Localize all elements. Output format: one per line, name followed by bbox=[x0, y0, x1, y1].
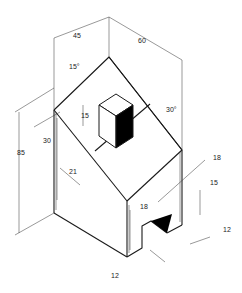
house-body bbox=[54, 57, 182, 257]
dim-30-left: 30 bbox=[43, 137, 51, 144]
dim-30-degree: 30° bbox=[166, 106, 177, 113]
dim-45: 45 bbox=[73, 32, 81, 39]
dim-15-cube: 15 bbox=[81, 112, 89, 119]
dim-12-bottom: 12 bbox=[111, 272, 119, 279]
dim-18-right: 18 bbox=[213, 154, 221, 161]
roof-cube bbox=[99, 94, 133, 148]
dim-85: 85 bbox=[17, 149, 25, 156]
dim-21: 21 bbox=[69, 168, 77, 175]
dim-60: 60 bbox=[138, 37, 146, 44]
dim-18-mid: 18 bbox=[140, 203, 148, 210]
dim-15-degree: 15° bbox=[69, 63, 80, 70]
dim-15-notch: 15 bbox=[210, 179, 218, 186]
isometric-drawing: 45 60 15° 30° 15 30 85 21 18 18 15 12 12 bbox=[0, 0, 242, 293]
dim-12-right: 12 bbox=[223, 226, 231, 233]
